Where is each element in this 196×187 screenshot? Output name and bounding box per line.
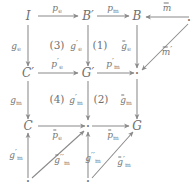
edge-label-pm-bar: pm	[107, 131, 119, 140]
node-B-prime: B′	[82, 10, 94, 22]
edge-label-ge-prime: g′e	[70, 42, 81, 51]
node-I: I	[26, 10, 31, 22]
node-dot-mid-right: ·	[135, 66, 139, 80]
edge-label-ge: ge	[11, 42, 20, 51]
edge-label-gm-dblprime: g′′m	[85, 154, 100, 163]
node-dot-top-right: ·	[187, 13, 191, 27]
region-label-1: (1)	[93, 40, 108, 51]
edge-label-gm-prime-2: g′m	[9, 151, 23, 160]
node-C-prime: C′	[22, 67, 34, 79]
node-G: G	[132, 120, 142, 132]
edge-label-gm-bar-dblprime: g′′m	[54, 156, 69, 165]
node-C: C	[23, 120, 32, 132]
commutative-diagram: I B′ B · C′ G′ · C · G · · pe pm m m′ ge…	[0, 0, 196, 187]
edge-label-pe-prime: p′e	[51, 60, 62, 69]
edge-label-ge-bar: ge	[121, 42, 130, 51]
edge-label-gm: gm	[10, 96, 22, 105]
node-dot-bottom-mid: ·	[86, 119, 90, 133]
region-label-3: (3)	[50, 40, 65, 51]
node-dot-bottom-left: ·	[26, 174, 30, 187]
edge-label-pm: pm	[107, 4, 119, 13]
edge-label-pm-prime: p′m	[106, 60, 120, 69]
region-label-4: (4)	[50, 94, 65, 105]
edge-label-pe-bar: pe	[52, 131, 61, 140]
edge-label-m-bar: m	[163, 4, 172, 13]
edge-label-gm-bar-prime: g′m	[117, 158, 131, 167]
node-B: B	[133, 10, 142, 22]
edge-label-gm-prime: g′m	[69, 96, 83, 105]
region-label-2: (2)	[94, 94, 109, 105]
node-G-prime: G′	[82, 67, 94, 79]
edge-label-pe: pe	[52, 4, 61, 13]
edge-label-m-bar-prime: m′	[162, 48, 173, 57]
edge-label-gm-bar: gm	[120, 96, 132, 105]
node-dot-bottom-right: ·	[86, 174, 90, 187]
